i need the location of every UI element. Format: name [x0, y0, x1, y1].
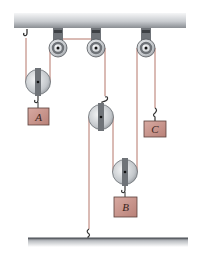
- ceiling: [14, 13, 186, 28]
- block-c-label: C: [151, 123, 159, 135]
- fixed-pulley-1: [49, 28, 67, 57]
- fixed-pulley-2: [87, 28, 105, 57]
- pulley-diagram: A C B: [0, 0, 204, 260]
- block-a: A: [28, 108, 49, 125]
- movable-pulley-a: [26, 68, 51, 108]
- block-a-label: A: [34, 111, 42, 123]
- floor-hook-icon: [87, 229, 89, 238]
- block-c-hook-icon: [154, 108, 157, 121]
- movable-pulley-b: [113, 158, 138, 197]
- movable-pulley-middle: [89, 97, 114, 131]
- block-b: B: [114, 197, 137, 217]
- block-b-label: B: [122, 201, 129, 213]
- floor: [28, 238, 188, 247]
- block-c: C: [144, 121, 166, 137]
- ceiling-hook-icon: [24, 29, 27, 36]
- fixed-pulley-3: [137, 28, 155, 57]
